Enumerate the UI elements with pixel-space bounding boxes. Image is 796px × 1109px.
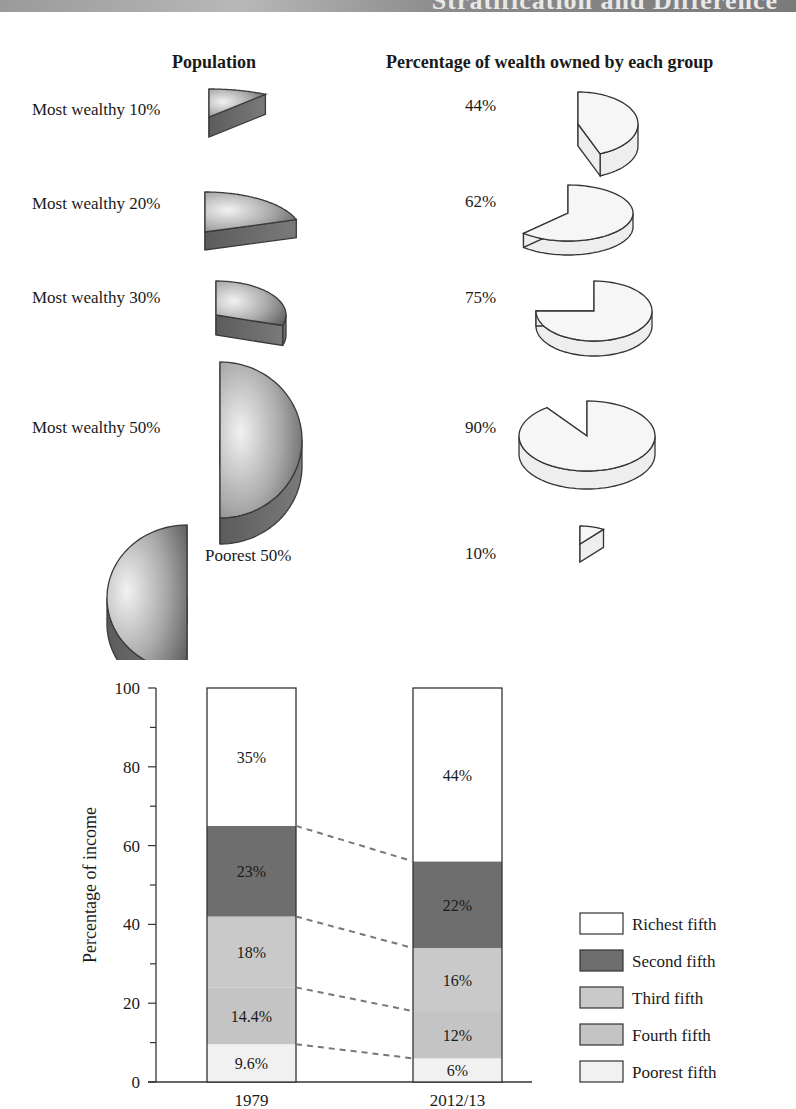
bar-value-label: 9.6% <box>235 1055 268 1072</box>
y-tick-label: 80 <box>123 758 140 777</box>
bar-value-label: 16% <box>443 972 472 989</box>
legend-label: Fourth fifth <box>632 1026 711 1045</box>
legend-label: Richest fifth <box>632 915 717 934</box>
bar-value-label: 23% <box>237 863 266 880</box>
x-tick-label: 2012/13 <box>430 1091 486 1109</box>
legend-label: Second fifth <box>632 952 716 971</box>
bar-value-label: 18% <box>237 944 266 961</box>
legend-swatch <box>580 1061 623 1082</box>
bar-value-label: 35% <box>237 749 266 766</box>
connector-line <box>296 917 413 949</box>
legend-swatch <box>580 913 623 934</box>
bar-value-label: 14.4% <box>231 1008 272 1025</box>
legend-swatch <box>580 950 623 971</box>
bar-value-label: 22% <box>443 897 472 914</box>
y-tick-label: 40 <box>123 915 140 934</box>
bar-value-label: 44% <box>443 767 472 784</box>
y-tick-label: 60 <box>123 837 140 856</box>
legend-swatch <box>580 1024 623 1045</box>
y-tick-label: 0 <box>132 1073 141 1092</box>
legend-label: Third fifth <box>632 989 704 1008</box>
connector-line <box>296 1044 413 1058</box>
y-tick-label: 100 <box>115 679 141 698</box>
y-tick-label: 20 <box>123 994 140 1013</box>
connector-line <box>296 826 413 861</box>
legend-swatch <box>580 987 623 1008</box>
income-bar-chart: 0204060801009.6%14.4%18%23%35%19796%12%1… <box>0 0 796 1109</box>
bar-value-label: 6% <box>447 1062 468 1079</box>
connector-line <box>296 987 413 1011</box>
x-tick-label: 1979 <box>235 1091 269 1109</box>
legend-label: Poorest fifth <box>632 1063 717 1082</box>
bar-value-label: 12% <box>443 1027 472 1044</box>
y-axis-title: Percentage of income <box>80 807 100 963</box>
